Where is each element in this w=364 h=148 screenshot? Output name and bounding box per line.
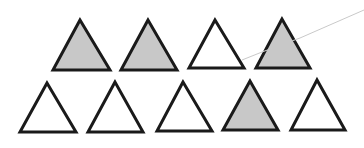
shaded-triangle-icon	[121, 20, 177, 70]
triangle-layer	[20, 19, 345, 132]
triangles-diagram	[0, 0, 364, 148]
triangle-row-1	[53, 19, 310, 70]
shaded-triangle-icon	[53, 20, 110, 70]
shaded-triangle-icon	[256, 19, 310, 68]
unshaded-triangle-icon	[88, 82, 143, 132]
unshaded-triangle-icon	[157, 82, 212, 131]
stray-pencil-line	[242, 10, 364, 60]
unshaded-triangle-icon	[189, 20, 244, 68]
triangle-row-2	[20, 80, 345, 132]
unshaded-triangle-icon	[291, 80, 345, 130]
shaded-triangle-icon	[223, 81, 278, 130]
unshaded-triangle-icon	[20, 83, 76, 132]
